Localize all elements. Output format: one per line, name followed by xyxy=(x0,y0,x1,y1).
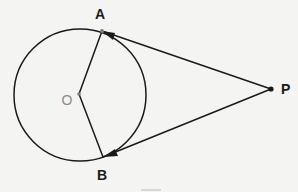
segment-bp xyxy=(103,89,271,157)
label-point-a: A xyxy=(95,6,105,22)
point-dot-o xyxy=(77,92,81,96)
geometry-figure: A B O P xyxy=(0,0,298,192)
point-dot-a xyxy=(100,29,104,33)
segment-ap xyxy=(102,31,271,89)
point-dot-p xyxy=(268,86,273,91)
segment-oa xyxy=(79,31,102,94)
arrowhead-at-a xyxy=(102,31,115,40)
label-point-o: O xyxy=(62,92,73,108)
bottom-edge-mark xyxy=(141,189,161,191)
label-point-b: B xyxy=(97,167,107,183)
segment-ob xyxy=(79,94,103,157)
label-point-p: P xyxy=(281,81,290,97)
geometry-canvas: A B O P xyxy=(0,0,298,192)
